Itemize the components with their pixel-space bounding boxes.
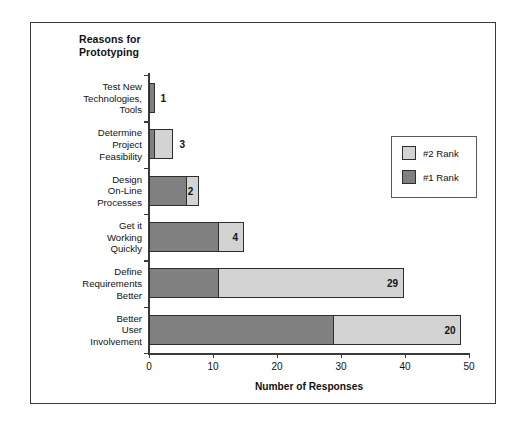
bar-value-label: 29: [387, 278, 398, 289]
bar-segment-1rank: [149, 268, 219, 298]
legend-item-rank1: #1 Rank: [402, 170, 476, 184]
bar-segment-2rank: [218, 268, 404, 298]
y-axis-tick: [144, 307, 149, 308]
stacked-bar: 4: [149, 222, 245, 252]
y-axis-tick: [144, 121, 149, 122]
stacked-bar: 3: [149, 129, 175, 159]
bar-segment-1rank: [149, 315, 335, 345]
x-axis-tick-label: 10: [207, 361, 218, 372]
chart-title: Reasons for Prototyping: [79, 33, 141, 59]
bar-segment-2rank: [154, 129, 173, 159]
bar-segment-1rank: [149, 83, 155, 113]
y-axis-tick: [144, 214, 149, 215]
bar-segment-2rank: [218, 222, 244, 252]
y-axis-tick-label: Design On-Line Processes: [32, 173, 142, 208]
x-axis-tick-label: 50: [463, 361, 474, 372]
x-axis-tick: [277, 353, 278, 358]
x-axis-tick: [405, 353, 406, 358]
y-axis-tick: [144, 168, 149, 169]
y-axis-tick-label: Get it Working Quickly: [32, 220, 142, 255]
legend-label-rank2: #2 Rank: [423, 148, 459, 159]
y-axis-tick: [144, 75, 149, 76]
bar-segment-2rank: [333, 315, 461, 345]
legend-item-rank2: #2 Rank: [402, 146, 476, 160]
y-axis-tick-label: Define Requirements Better: [32, 266, 142, 301]
x-axis-tick-label: 20: [271, 361, 282, 372]
x-axis-tick: [341, 353, 342, 358]
legend-label-rank1: #1 Rank: [423, 172, 459, 183]
y-axis-tick: [144, 260, 149, 261]
x-axis-tick-label: 40: [399, 361, 410, 372]
x-axis-tick: [149, 353, 150, 358]
chart-category-row: Get it Working Quickly4: [149, 214, 469, 260]
x-axis-tick-label: 30: [335, 361, 346, 372]
x-axis-tick: [213, 353, 214, 358]
bar-value-label: 4: [232, 232, 238, 243]
bar-value-label: 3: [180, 139, 186, 150]
y-axis-tick-label: Determine Project Feasibility: [32, 127, 142, 162]
chart-category-row: Define Requirements Better29: [149, 260, 469, 306]
plot-area: Test New Technologies, Tools1Determine P…: [149, 75, 469, 353]
stacked-bar: 20: [149, 315, 463, 345]
chart-category-row: Better User Involvement20: [149, 307, 469, 353]
chart-legend: #2 Rank #1 Rank: [391, 136, 477, 198]
stacked-bar: 1: [149, 83, 155, 113]
x-axis-tick-label: 0: [146, 361, 152, 372]
chart-frame: Reasons for Prototyping Test New Technol…: [30, 22, 496, 404]
x-axis-tick: [469, 353, 470, 358]
x-axis-title: Number of Responses: [148, 381, 470, 392]
y-axis-tick-label: Better User Involvement: [32, 312, 142, 347]
chart-category-row: Test New Technologies, Tools1: [149, 75, 469, 121]
y-axis-tick-label: Test New Technologies, Tools: [32, 81, 142, 116]
bar-segment-1rank: [149, 222, 219, 252]
bar-value-label: 1: [160, 93, 166, 104]
legend-swatch-rank1: [402, 170, 416, 184]
stacked-bar: 2: [149, 176, 200, 206]
bar-value-label: 20: [444, 324, 455, 335]
stacked-bar: 29: [149, 268, 405, 298]
bar-value-label: 2: [188, 185, 194, 196]
bar-segment-1rank: [149, 176, 187, 206]
x-axis-line: [148, 353, 470, 355]
legend-swatch-rank2: [402, 146, 416, 160]
